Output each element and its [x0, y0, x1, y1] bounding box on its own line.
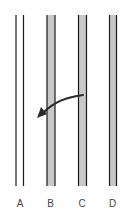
channel-d [110, 15, 117, 186]
channel-diagram: A B C D [0, 0, 132, 221]
label-d: D [109, 198, 116, 209]
label-c: C [78, 198, 85, 209]
channel-a [16, 15, 24, 186]
channel-c [79, 15, 87, 186]
curved-arrow-icon [37, 95, 83, 118]
channel-b [47, 15, 55, 186]
label-b: B [47, 198, 54, 209]
label-a: A [17, 198, 24, 209]
